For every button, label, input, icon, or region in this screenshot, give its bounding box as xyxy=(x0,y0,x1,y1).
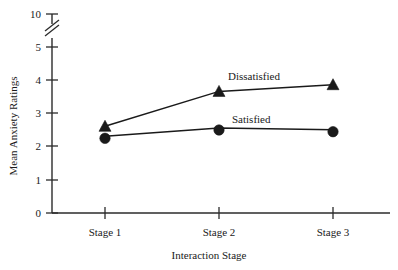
line-chart: 10 5 4 3 2 1 0 Stage 1 Stage 2 Stage 3 I… xyxy=(0,0,398,270)
x-tick-label-stage-3: Stage 3 xyxy=(317,226,350,238)
x-tick-label-stage-2: Stage 2 xyxy=(203,226,236,238)
y-tick-label-5: 5 xyxy=(36,41,42,53)
y-tick-label-2: 2 xyxy=(36,140,42,152)
y-tick-label-4: 4 xyxy=(36,74,42,86)
data-point-satisfied-stage-3 xyxy=(328,127,338,137)
chart-container: 10 5 4 3 2 1 0 Stage 1 Stage 2 Stage 3 I… xyxy=(0,0,398,270)
y-tick-label-3: 3 xyxy=(36,107,42,119)
data-point-dissatisfied-stage-1 xyxy=(99,120,111,131)
series-label-dissatisfied: Dissatisfied xyxy=(228,70,280,82)
y-tick-label-1: 1 xyxy=(36,174,42,186)
x-axis-title: Interaction Stage xyxy=(172,249,247,261)
x-tick-label-stage-1: Stage 1 xyxy=(89,226,122,238)
series-label-satisfied: Satisfied xyxy=(232,113,271,125)
data-point-satisfied-stage-1 xyxy=(100,133,110,143)
y-tick-label-10: 10 xyxy=(30,8,42,20)
data-point-satisfied-stage-2 xyxy=(214,125,224,135)
y-axis-title: Mean Anxiety Ratings xyxy=(7,77,19,176)
y-tick-label-0: 0 xyxy=(36,207,42,219)
